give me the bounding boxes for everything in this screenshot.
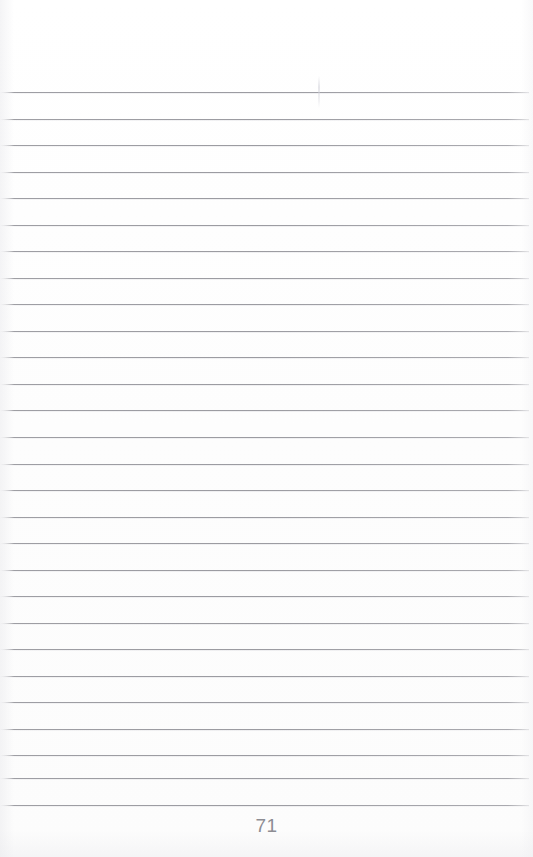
scanned-page: 71 xyxy=(0,0,533,857)
ruled-line xyxy=(0,649,529,650)
ruled-line xyxy=(0,225,529,226)
ruled-line xyxy=(0,119,529,120)
ruled-line xyxy=(0,384,529,385)
ruled-line xyxy=(0,198,529,199)
ruled-line xyxy=(0,490,529,491)
ruled-line xyxy=(0,92,529,93)
ruled-line xyxy=(0,145,529,146)
ruled-lines-layer xyxy=(0,0,533,857)
ruled-line xyxy=(0,596,529,597)
ruled-line xyxy=(0,517,529,518)
ruled-line xyxy=(0,437,529,438)
ruled-line xyxy=(0,410,529,411)
ruled-line xyxy=(0,570,529,571)
ruled-line xyxy=(0,778,529,779)
ruled-line xyxy=(0,172,529,173)
ruled-line xyxy=(0,278,529,279)
ruled-line xyxy=(0,805,529,806)
ruled-line xyxy=(0,729,529,730)
ruled-line xyxy=(0,755,529,756)
ruled-line xyxy=(0,304,529,305)
ruled-line xyxy=(0,623,529,624)
page-number: 71 xyxy=(0,815,533,837)
ruled-line xyxy=(0,357,529,358)
ruled-line xyxy=(0,331,529,332)
ruled-line xyxy=(0,251,529,252)
ruled-line xyxy=(0,702,529,703)
ruled-line xyxy=(0,464,529,465)
ruled-line xyxy=(0,543,529,544)
ruled-line xyxy=(0,676,529,677)
